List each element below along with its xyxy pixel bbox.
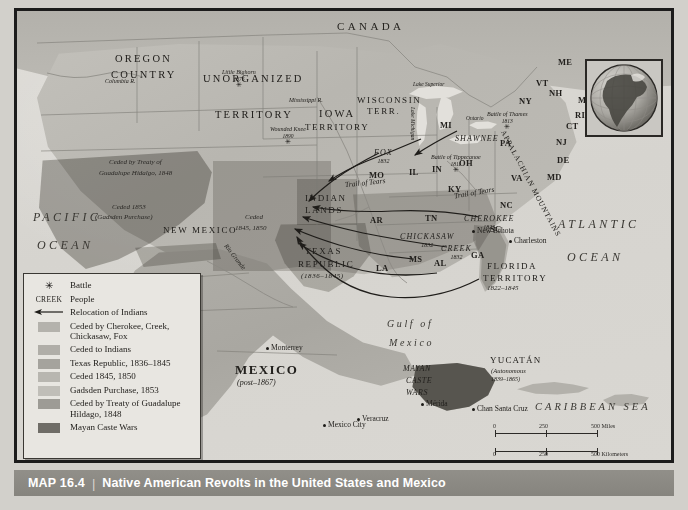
map-canvas: PACIFIC OCEAN ATLANTIC OCEAN CARIBBEAN S… <box>17 11 671 460</box>
legend-item-5: Texas Republic, 1836–1845 <box>30 358 195 369</box>
territory-texas-line1: TEXAS <box>305 246 342 256</box>
state-label-md: MD <box>547 173 562 183</box>
swatch <box>38 386 60 396</box>
territory-florida-line1: FLORIDA <box>487 261 537 271</box>
state-label-me: ME <box>558 58 572 68</box>
state-label-ny: NY <box>519 97 532 107</box>
people-sample-text: CREEK <box>36 295 63 304</box>
swatch <box>38 399 60 409</box>
lake-label-michigan: Lake Michigan <box>410 107 416 140</box>
tribe-date: 1832 <box>374 158 393 165</box>
battle-marker-little-bighorn: Little Bighorn1876✳ <box>222 69 256 89</box>
territory-florida-line2: TERRITORY <box>483 273 547 283</box>
legend-battle-star-icon: ✳ <box>30 280 68 291</box>
swatch <box>38 359 60 369</box>
legend-item-9: Mayan Caste Wars <box>30 422 195 433</box>
legend-item-label: People <box>68 294 95 305</box>
legend-color-swatch <box>30 371 68 382</box>
feature-mayan-caste-wars-line3: WARS <box>406 389 428 398</box>
state-label-ri: RI <box>575 111 585 121</box>
swatch <box>38 322 60 332</box>
ocean-label-atlantic-line2: OCEAN <box>567 251 623 264</box>
country-label-mexico: MEXICO <box>235 363 298 378</box>
state-label-nh: NH <box>549 89 562 99</box>
territory-indian-lands-line2: LANDS <box>305 205 343 215</box>
legend-item-6: Ceded 1845, 1850 <box>30 371 195 382</box>
city-label-veracruz: Veracruz <box>362 415 389 423</box>
territory-unorganized-line2: TERRITORY <box>215 109 293 121</box>
legend-color-swatch <box>30 344 68 355</box>
cession-guadalupe-line2: Guadalupe Hidalgo, 1848 <box>99 170 172 178</box>
cession-gadsden-line1: Ceded 1853 <box>112 204 146 212</box>
city-dot-veracruz <box>357 418 360 421</box>
city-label-charleston: Charleston <box>514 237 547 245</box>
city-label-chan-santa-cruz: Chan Santa Cruz <box>477 405 528 413</box>
caption-map-number: MAP 16.4 <box>28 476 85 490</box>
territory-indian-lands-line1: INDIAN <box>305 193 347 203</box>
map-frame: PACIFIC OCEAN ATLANTIC OCEAN CARIBBEAN S… <box>14 8 674 463</box>
battle-star-icon: ✳ <box>222 82 256 89</box>
legend-item-label: Gadsden Purchase, 1853 <box>68 385 159 396</box>
legend-item-8: Ceded by Treaty of Guadalupe Hildago, 18… <box>30 398 195 419</box>
map-caption-bar: MAP 16.4 | Native American Revolts in th… <box>14 470 674 496</box>
ocean-label-atlantic-line1: ATLANTIC <box>558 218 639 231</box>
territory-texas-date: (1836–1845) <box>301 273 344 281</box>
battle-name: Battle of Thames <box>487 111 528 118</box>
legend-color-swatch <box>30 321 68 332</box>
territory-iowa-line1: IOWA <box>319 108 355 120</box>
battle-name: Little Bighorn <box>222 69 256 76</box>
sea-label-caribbean: CARIBBEAN SEA <box>535 401 651 413</box>
legend-color-swatch <box>30 398 68 409</box>
cession-guadalupe-line1: Ceded by Treaty of <box>109 159 162 167</box>
state-label-de: DE <box>557 156 569 166</box>
battle-name: Battle of Tippecanoe <box>431 154 481 161</box>
swatch <box>38 345 60 355</box>
city-label-m-rida: Mérida <box>426 400 448 408</box>
battle-star-icon: ✳ <box>270 139 306 146</box>
state-label-nc: NC <box>500 201 513 211</box>
caption-separator: | <box>92 476 95 491</box>
city-label-monterrey: Monterrey <box>271 344 303 352</box>
lake-label-superior: Lake Superior <box>413 81 444 87</box>
cession-gadsden-line2: (Gadsden Purchase) <box>95 214 152 222</box>
legend-item-3: Ceded by Cherokee, Creek, Chickasaw, Fox <box>30 321 195 342</box>
legend-item-7: Gadsden Purchase, 1853 <box>30 385 195 396</box>
scale-km-0: 0 <box>493 451 496 457</box>
legend-item-2: Relocation of Indians <box>30 307 195 318</box>
legend-item-1: CREEKPeople <box>30 294 195 305</box>
state-label-ga: GA <box>471 251 484 261</box>
state-label-nj: NJ <box>556 138 567 148</box>
city-dot-charleston <box>509 240 512 243</box>
city-label-new-echota: New Echota <box>477 227 514 235</box>
state-label-ar: AR <box>370 216 383 226</box>
gulf-label-line2: Mexico <box>389 337 434 348</box>
cession-1845-1850-line2: 1845, 1850 <box>235 225 267 233</box>
territory-wisconsin-line2: TERR. <box>367 106 400 116</box>
city-dot-m-rida <box>421 403 424 406</box>
tribe-name: CREEK <box>441 245 472 254</box>
scale-miles-250: 250 <box>539 423 548 429</box>
scale-bar-miles: 0 250 500 Miles <box>491 429 641 438</box>
legend-item-0: ✳Battle <box>30 280 195 291</box>
star-icon: ✳ <box>45 281 53 291</box>
legend-item-label: Ceded 1845, 1850 <box>68 371 136 382</box>
cession-1845-1850-line1: Ceded <box>245 214 263 222</box>
territory-iowa-line2: TERRITORY <box>305 122 369 132</box>
territory-florida-date: 1822–1845 <box>487 285 519 293</box>
legend-color-swatch <box>30 358 68 369</box>
state-label-ct: CT <box>566 122 578 132</box>
legend-item-4: Ceded to Indians <box>30 344 195 355</box>
territory-yucatan: YUCATÁN <box>490 355 541 365</box>
legend-item-label: Mayan Caste Wars <box>68 422 138 433</box>
feature-mayan-caste-wars-line1: MAYAN <box>403 365 431 374</box>
legend-item-label: Ceded by Cherokee, Creek, Chickasaw, Fox <box>68 321 195 342</box>
legend-item-label: Battle <box>68 280 92 291</box>
tribe-label-creek: CREEK1832 <box>441 245 472 261</box>
city-dot-chan-santa-cruz <box>472 408 475 411</box>
ocean-label-pacific-line1: PACIFIC <box>33 211 101 224</box>
tribe-name: FOX <box>374 149 393 158</box>
state-label-ms: MS <box>409 255 422 265</box>
legend-color-swatch <box>30 422 68 433</box>
legend-item-label: Ceded to Indians <box>68 344 131 355</box>
legend-people-sample: CREEK <box>30 294 68 304</box>
